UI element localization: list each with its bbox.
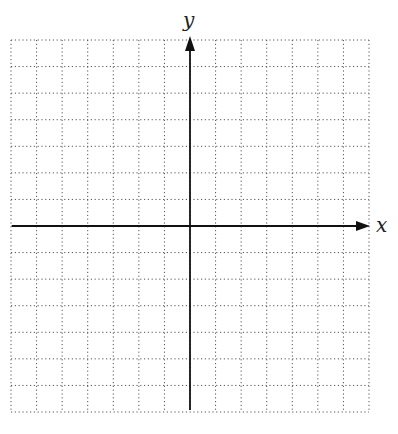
x-axis-arrow-icon xyxy=(356,221,370,231)
coordinate-plane: x y xyxy=(0,0,398,434)
x-axis-label: x xyxy=(376,213,387,237)
y-axis-arrow-icon xyxy=(185,36,195,51)
y-axis-label: y xyxy=(182,8,195,32)
